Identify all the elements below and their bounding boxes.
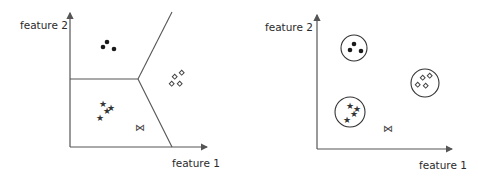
query-point: ⋈ (383, 123, 393, 134)
dot-points (348, 42, 364, 54)
cluster-dots (341, 35, 367, 61)
svg-text:★: ★ (96, 113, 104, 123)
star-points: ★ ★ ★ ★ (96, 99, 115, 123)
cluster-diamonds (411, 69, 439, 97)
x-axis-label: feature 1 (172, 157, 220, 169)
voronoi-boundaries (70, 12, 172, 147)
svg-text:★: ★ (103, 106, 111, 116)
diamond-points (169, 70, 184, 86)
diagram-canvas: feature 2 feature 1 ★ ★ ★ ★ ⋈ fe (0, 0, 478, 177)
diamond-points (415, 73, 432, 88)
left-panel: feature 2 feature 1 ★ ★ ★ ★ ⋈ (20, 12, 220, 169)
svg-text:★: ★ (350, 109, 358, 119)
dot-points (101, 40, 117, 52)
x-axis-label: feature 1 (419, 159, 467, 171)
svg-text:★: ★ (343, 115, 351, 125)
right-panel: feature 2 feature 1 ★ ★ ★ ★ ⋈ (265, 15, 467, 171)
star-points: ★ ★ ★ ★ (343, 101, 361, 125)
y-axis-label: feature 2 (20, 19, 68, 31)
query-point: ⋈ (135, 122, 145, 133)
y-axis-label: feature 2 (265, 21, 313, 33)
